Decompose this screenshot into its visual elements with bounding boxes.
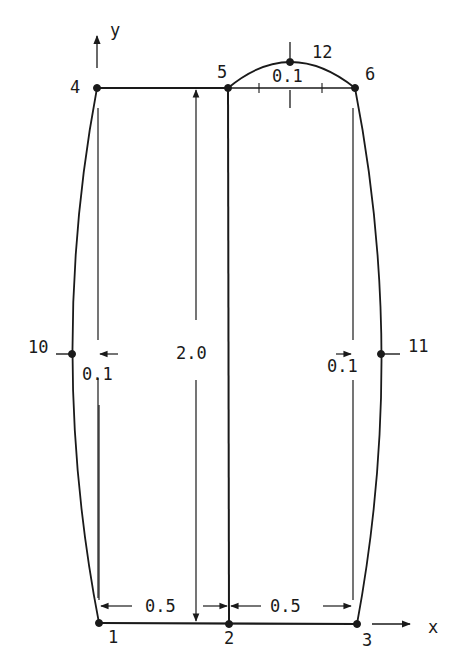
node-label-1: 1 [108, 627, 118, 647]
node-4 [94, 85, 101, 92]
element-edges [72, 62, 381, 624]
node-5 [225, 85, 232, 92]
node-label-5: 5 [217, 62, 227, 82]
node-label-12: 12 [312, 42, 332, 62]
node-label-10: 10 [28, 337, 48, 357]
bottom-left-width-label: 0.5 [145, 596, 176, 616]
nodes [69, 59, 385, 628]
fem-mesh-diagram: y x 2.0 0.1 [0, 0, 464, 665]
height-dimension-label: 2.0 [176, 343, 207, 363]
x-axis-label: x [428, 617, 438, 637]
right-bulge-label: 0.1 [327, 356, 358, 376]
dimension-left-bulge: 0.1 [56, 108, 118, 598]
node-11 [378, 351, 385, 358]
node-10 [69, 351, 76, 358]
dimension-height: 2.0 [176, 90, 207, 621]
node-12 [287, 59, 294, 66]
node-label-2: 2 [224, 628, 234, 648]
node-1 [96, 620, 103, 627]
dimension-right-bulge: 0.1 [327, 108, 400, 598]
node-6 [352, 85, 359, 92]
node-label-3: 3 [362, 630, 372, 650]
node-3 [354, 621, 361, 628]
node-label-6: 6 [365, 64, 375, 84]
bottom-right-width-label: 0.5 [270, 596, 301, 616]
left-bulge-label: 0.1 [82, 364, 113, 384]
node-label-4: 4 [70, 77, 80, 97]
node-2 [226, 621, 233, 628]
y-axis: y [97, 20, 120, 68]
top-bulge-label: 0.1 [272, 66, 303, 86]
dimension-bottom-widths: 0.5 0.5 [99, 405, 353, 616]
x-axis: x [372, 617, 438, 637]
node-label-11: 11 [408, 336, 428, 356]
y-axis-label: y [110, 20, 120, 40]
